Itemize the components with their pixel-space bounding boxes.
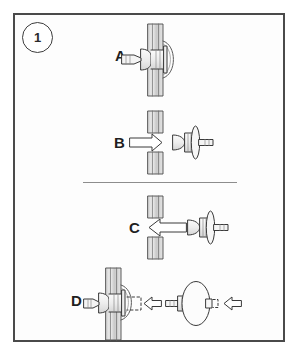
step-number-text: 1	[34, 31, 41, 44]
step-label-d: D	[71, 293, 82, 308]
figure-root: 1 A B C D	[0, 0, 301, 359]
step-label-b: B	[114, 135, 125, 150]
section-divider	[83, 182, 237, 183]
step-number-badge: 1	[22, 22, 53, 53]
panel-frame	[13, 13, 285, 342]
step-label-a: A	[115, 48, 126, 63]
step-label-c: C	[129, 220, 140, 235]
